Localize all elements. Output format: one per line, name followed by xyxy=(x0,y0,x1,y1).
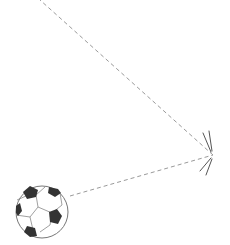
incoming-trajectory-line xyxy=(70,155,213,196)
illustration-canvas xyxy=(0,0,230,245)
bounce-illustration xyxy=(0,0,230,245)
soccer-ball-icon xyxy=(16,186,68,238)
outgoing-trajectory-line xyxy=(40,0,213,155)
